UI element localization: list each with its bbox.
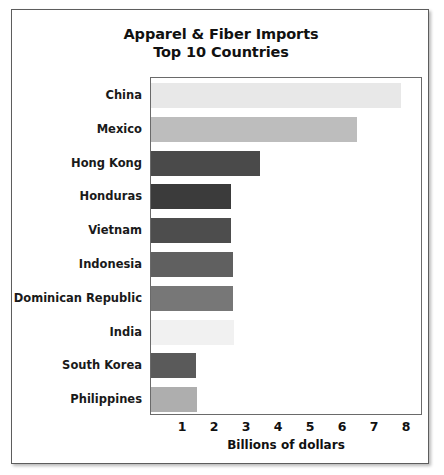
bar: [151, 117, 357, 142]
x-tick-label: 1: [170, 419, 194, 434]
x-tick-label: 4: [266, 419, 290, 434]
bar-row: South Korea: [151, 349, 421, 383]
bar-row: Philippines: [151, 383, 421, 417]
bar-row: China: [151, 79, 421, 113]
category-label: Hong Kong: [71, 151, 142, 176]
chart-title-line1: Apparel & Fiber Imports: [123, 26, 318, 42]
bar: [151, 151, 260, 176]
category-label: Vietnam: [88, 218, 142, 243]
chart-title-line2: Top 10 Countries: [12, 43, 430, 61]
bar-row: Vietnam: [151, 214, 421, 248]
bar: [151, 218, 231, 243]
bar: [151, 83, 401, 108]
bar: [151, 320, 234, 345]
x-tick-label: 5: [298, 419, 322, 434]
category-label: China: [105, 83, 142, 108]
x-tick-label: 3: [234, 419, 258, 434]
bar: [151, 184, 231, 209]
x-axis-ticks: 12345678: [150, 419, 422, 439]
bar-row: India: [151, 316, 421, 350]
bar: [151, 252, 233, 277]
bar: [151, 353, 196, 378]
bar: [151, 286, 233, 311]
x-tick-label: 2: [202, 419, 226, 434]
bar-row: Hong Kong: [151, 147, 421, 181]
bar-row: Dominican Republic: [151, 282, 421, 316]
bar-series: ChinaMexicoHong KongHondurasVietnamIndon…: [151, 78, 421, 414]
bar: [151, 387, 197, 412]
x-axis-label: Billions of dollars: [150, 438, 422, 452]
plot-area: ChinaMexicoHong KongHondurasVietnamIndon…: [150, 77, 422, 415]
category-label: Mexico: [97, 117, 142, 142]
category-label: Honduras: [80, 184, 142, 209]
x-tick-label: 8: [394, 419, 418, 434]
bar-row: Honduras: [151, 180, 421, 214]
category-label: Indonesia: [79, 252, 142, 277]
category-label: Dominican Republic: [14, 286, 142, 311]
category-label: India: [110, 320, 142, 345]
page-title: Apparel & Fiber Imports Top 10 Countries: [12, 25, 430, 61]
bar-row: Mexico: [151, 113, 421, 147]
x-tick-label: 6: [330, 419, 354, 434]
x-tick-label: 7: [362, 419, 386, 434]
bar-row: Indonesia: [151, 248, 421, 282]
category-label: Philippines: [70, 387, 142, 412]
category-label: South Korea: [62, 353, 142, 378]
chart-figure-frame: Apparel & Fiber Imports Top 10 Countries…: [11, 9, 429, 464]
